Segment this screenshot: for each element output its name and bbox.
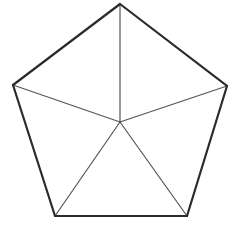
pentagon-diagram (0, 0, 240, 226)
figure-canvas (0, 0, 240, 226)
